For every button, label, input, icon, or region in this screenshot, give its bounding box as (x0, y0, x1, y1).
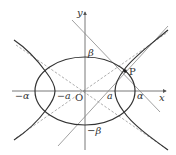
ellipse-bottom-label: −β (87, 125, 101, 136)
point-p-label: P (129, 66, 136, 77)
tangent-lines (58, 20, 168, 146)
ellipse-top-label: β (87, 47, 94, 58)
hyperbola-right-label: a (107, 90, 113, 101)
hyperbola-left-label: −a (57, 90, 71, 101)
ellipse-left-label: −α (15, 90, 30, 101)
origin-label: O (75, 92, 83, 103)
point-p-marker (123, 69, 127, 73)
ellipse-right-label: α (137, 90, 144, 101)
conic-diagram: y x O P β −β −α −a a α (0, 0, 176, 155)
x-axis-label: x (159, 92, 165, 103)
y-axis-label: y (76, 7, 83, 18)
